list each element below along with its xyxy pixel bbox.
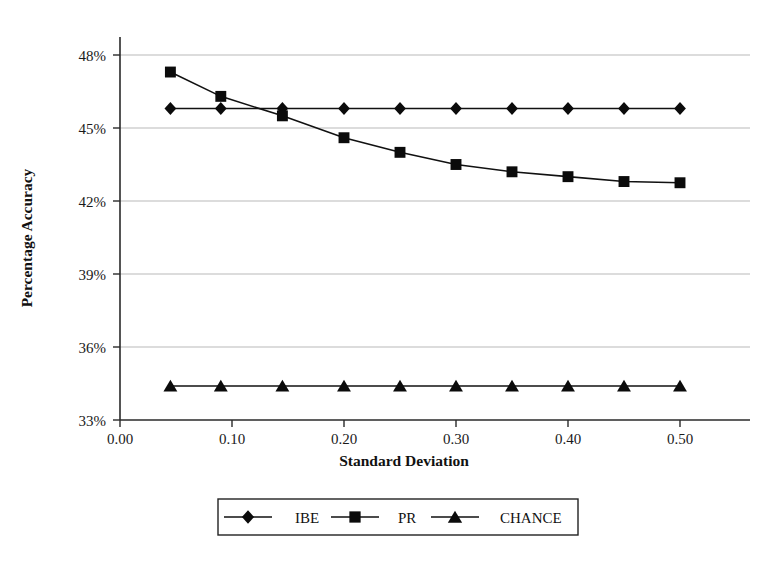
square-marker <box>215 91 226 102</box>
legend-label: CHANCE <box>500 510 562 526</box>
square-marker <box>451 159 462 170</box>
y-tick-label: 39% <box>79 267 107 283</box>
x-tick-label: 0.20 <box>331 431 357 447</box>
x-tick-label: 0.50 <box>667 431 693 447</box>
x-tick-label: 0.40 <box>555 431 581 447</box>
y-tick-label: 45% <box>79 121 107 137</box>
square-marker <box>339 132 350 143</box>
line-chart: 33%36%39%42%45%48% 0.000.100.200.300.400… <box>0 0 769 561</box>
legend-label: PR <box>398 510 416 526</box>
x-axis-title: Standard Deviation <box>339 452 469 469</box>
square-marker <box>619 176 630 187</box>
square-marker <box>675 177 686 188</box>
chart-figure: 33%36%39%42%45%48% 0.000.100.200.300.400… <box>0 0 769 561</box>
y-axis-title: Percentage Accuracy <box>18 168 35 307</box>
x-tick-label: 0.30 <box>443 431 469 447</box>
square-marker <box>395 147 406 158</box>
chart-background <box>0 0 769 561</box>
legend-label: IBE <box>295 510 319 526</box>
square-marker <box>507 166 518 177</box>
chart-legend: IBEPRCHANCE <box>218 499 578 535</box>
square-marker <box>165 67 176 78</box>
y-tick-label: 36% <box>79 340 107 356</box>
y-tick-label: 33% <box>79 413 107 429</box>
y-tick-label: 48% <box>79 48 107 64</box>
x-tick-label: 0.00 <box>107 431 133 447</box>
y-tick-label: 42% <box>79 194 107 210</box>
square-marker <box>563 171 574 182</box>
x-tick-label: 0.10 <box>219 431 245 447</box>
square-marker <box>277 110 288 121</box>
legend-square-icon <box>349 511 360 522</box>
